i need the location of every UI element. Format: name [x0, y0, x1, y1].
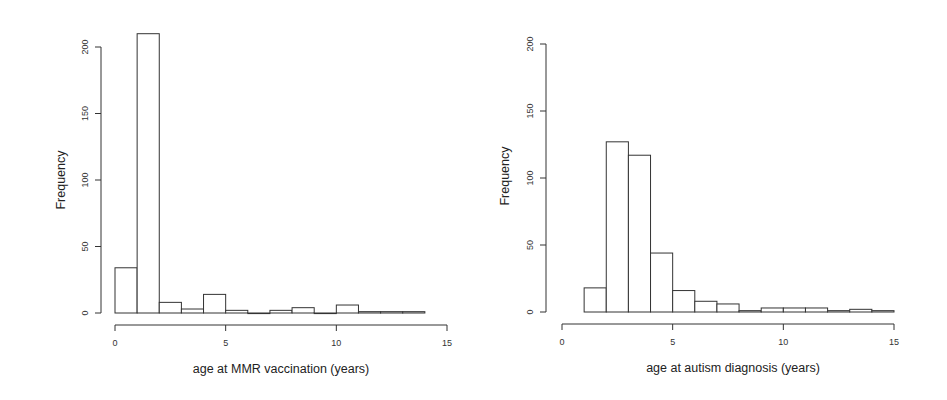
bars — [584, 142, 894, 312]
histogram-bar — [226, 310, 248, 313]
y-tick-label: 150 — [80, 106, 90, 121]
histogram-bar — [115, 268, 137, 313]
histogram-bar — [695, 301, 717, 312]
x-tick-label: 0 — [112, 338, 117, 348]
x-tick-label: 10 — [778, 337, 788, 347]
y-axis: 050100150200 — [525, 36, 546, 314]
x-tick-label: 5 — [670, 337, 675, 347]
y-tick-label: 100 — [525, 170, 535, 185]
histogram-figure: 050100150200 051015 Frequency age at MMR… — [0, 0, 947, 400]
histogram-bar — [403, 312, 425, 313]
histogram-bar — [673, 291, 695, 312]
y-tick-label: 200 — [80, 39, 90, 54]
histogram-bar — [270, 310, 292, 313]
x-tick-label: 10 — [331, 338, 341, 348]
x-axis-title: age at autism diagnosis (years) — [646, 361, 820, 375]
histogram-bar — [805, 308, 827, 312]
x-tick-label: 15 — [442, 338, 452, 348]
histogram-bar — [381, 312, 403, 313]
histogram-bar — [181, 309, 203, 313]
x-axis: 051015 — [112, 325, 452, 348]
histogram-bar — [628, 155, 650, 312]
histogram-bar — [159, 302, 181, 313]
y-axis: 050100150200 — [80, 39, 101, 315]
histogram-bar — [336, 305, 358, 313]
y-axis-title: Frequency — [54, 150, 68, 210]
mmr-vaccination-histogram: 050100150200 051015 Frequency age at MMR… — [54, 34, 452, 376]
x-tick-label: 0 — [559, 337, 564, 347]
x-axis: 051015 — [559, 324, 899, 347]
y-tick-label: 50 — [525, 240, 535, 250]
histogram-bar — [292, 308, 314, 313]
histogram-bar — [137, 34, 159, 313]
histogram-bar — [761, 308, 783, 312]
histogram-bar — [606, 142, 628, 312]
histogram-bar — [739, 311, 761, 312]
histogram-bar — [850, 309, 872, 312]
histogram-bar — [204, 294, 226, 313]
y-axis-title: Frequency — [498, 146, 512, 206]
histogram-bar — [248, 313, 270, 314]
histogram-bar — [828, 311, 850, 312]
y-tick-label: 0 — [80, 310, 90, 315]
y-tick-label: 100 — [80, 172, 90, 187]
histogram-bar — [358, 312, 380, 313]
y-tick-label: 150 — [525, 103, 535, 118]
x-tick-label: 5 — [223, 338, 228, 348]
autism-diagnosis-histogram: 050100150200 051015 Frequency age at aut… — [498, 36, 899, 375]
y-tick-label: 0 — [525, 309, 535, 314]
histogram-bar — [717, 304, 739, 312]
histogram-bar — [584, 288, 606, 312]
bars — [115, 34, 425, 314]
x-axis-title: age at MMR vaccination (years) — [193, 362, 369, 376]
y-tick-label: 50 — [80, 241, 90, 251]
y-tick-label: 200 — [525, 36, 535, 51]
x-tick-label: 15 — [889, 337, 899, 347]
histogram-bar — [872, 311, 894, 312]
histogram-bar — [314, 313, 336, 314]
histogram-bar — [651, 253, 673, 312]
histogram-bar — [783, 308, 805, 312]
